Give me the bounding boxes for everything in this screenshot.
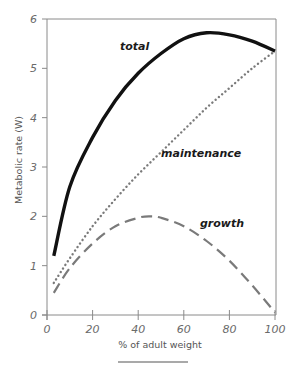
y-tick-label: 4 bbox=[30, 112, 37, 125]
y-tick-label: 3 bbox=[30, 161, 37, 174]
metabolic-rate-chart: 0123456 020406080100 total maintenance g… bbox=[0, 0, 293, 374]
total-label: total bbox=[120, 40, 149, 53]
x-tick-label: 100 bbox=[265, 323, 286, 336]
y-tick-label: 2 bbox=[30, 210, 37, 223]
x-tick-label: 40 bbox=[131, 323, 145, 336]
x-tick-label: 60 bbox=[177, 323, 191, 336]
y-axis-title: Metabolic rate (W) bbox=[13, 116, 24, 204]
growth-label: growth bbox=[200, 217, 244, 230]
y-tick-label: 1 bbox=[30, 260, 37, 273]
y-axis-ticks: 0123456 bbox=[30, 13, 47, 322]
x-tick-label: 0 bbox=[44, 323, 51, 336]
y-tick-label: 5 bbox=[30, 62, 37, 75]
x-tick-label: 20 bbox=[86, 323, 100, 336]
y-tick-label: 6 bbox=[30, 13, 37, 26]
x-axis-ticks: 020406080100 bbox=[44, 310, 286, 336]
x-tick-label: 80 bbox=[222, 323, 236, 336]
maintenance-label: maintenance bbox=[161, 147, 242, 160]
x-axis-title: % of adult weight bbox=[118, 339, 202, 350]
growth-line bbox=[54, 216, 275, 312]
y-tick-label: 0 bbox=[30, 309, 37, 322]
